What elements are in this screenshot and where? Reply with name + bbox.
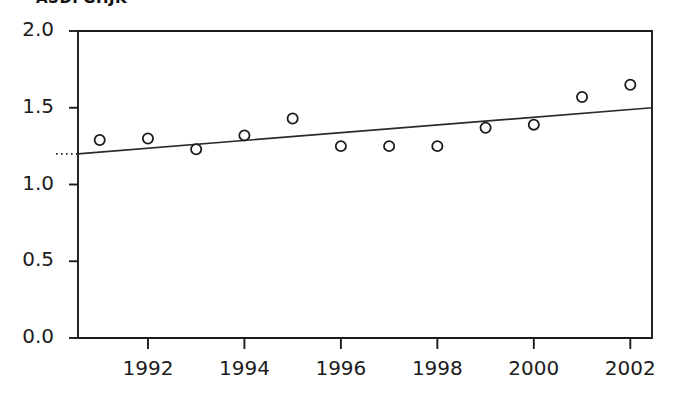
trend-line xyxy=(78,108,652,154)
x-tick-label-1996: 1996 xyxy=(306,356,376,380)
data-point-1995 xyxy=(288,113,298,123)
data-point-2001 xyxy=(577,92,587,102)
x-tick-label-2000: 2000 xyxy=(499,356,569,380)
chart-plot-area: 0.00.51.01.52.0199219941996199820002002 xyxy=(0,0,681,415)
data-point-1998 xyxy=(432,141,442,151)
x-tick-label-2002: 2002 xyxy=(595,356,665,380)
data-point-1994 xyxy=(239,130,249,140)
y-tick-label-1.5: 1.5 xyxy=(0,94,54,118)
y-tick-label-1.0: 1.0 xyxy=(0,171,54,195)
x-tick-label-1994: 1994 xyxy=(209,356,279,380)
chart-svg xyxy=(0,0,681,415)
data-point-1996 xyxy=(336,141,346,151)
plot-frame xyxy=(78,31,652,338)
x-tick-label-1992: 1992 xyxy=(113,356,183,380)
data-point-2002 xyxy=(625,80,635,90)
x-tick-label-1998: 1998 xyxy=(402,356,472,380)
data-point-1997 xyxy=(384,141,394,151)
y-tick-label-0.5: 0.5 xyxy=(0,247,54,271)
data-point-1992 xyxy=(143,133,153,143)
data-point-1991 xyxy=(95,135,105,145)
data-point-1993 xyxy=(191,144,201,154)
y-tick-label-0.0: 0.0 xyxy=(0,324,54,348)
data-point-1999 xyxy=(480,123,490,133)
y-tick-label-2.0: 2.0 xyxy=(0,17,54,41)
data-point-2000 xyxy=(529,120,539,130)
